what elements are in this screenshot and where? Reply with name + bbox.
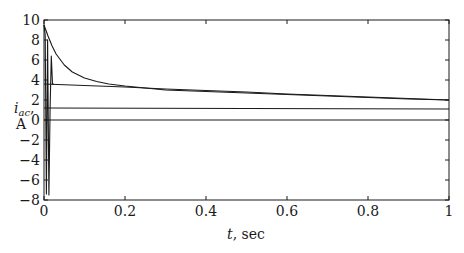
y-tick-label: −6 (19, 172, 40, 188)
x-tick-label: 0.4 (195, 203, 217, 219)
series-line-4 (44, 25, 54, 195)
series-line-1 (44, 84, 449, 100)
series-line-2 (44, 108, 449, 109)
plot-frame (44, 20, 449, 200)
y-tick-label: 8 (31, 32, 40, 48)
x-axis-label: t, sec (227, 226, 265, 242)
y-tick-label: −8 (19, 192, 40, 208)
y-tick-label: −2 (19, 132, 40, 148)
y-axis-ticks: −8−6−4−20246810 (19, 12, 449, 208)
y-tick-label: 10 (22, 12, 40, 28)
y-tick-label: 6 (31, 52, 40, 68)
y-tick-label: 4 (31, 72, 40, 88)
x-tick-label: 0.8 (357, 203, 379, 219)
y-tick-label: −4 (19, 152, 40, 168)
plot-lines (44, 25, 449, 195)
x-tick-label: 0.2 (114, 203, 136, 219)
chart: 00.20.40.60.81 −8−6−4−20246810 t, sec ia… (0, 0, 464, 253)
x-tick-label: 0 (40, 203, 49, 219)
x-tick-label: 0.6 (276, 203, 298, 219)
x-tick-label: 1 (445, 203, 454, 219)
series-line-0 (44, 25, 449, 100)
y-axis-unit: A (15, 116, 27, 132)
